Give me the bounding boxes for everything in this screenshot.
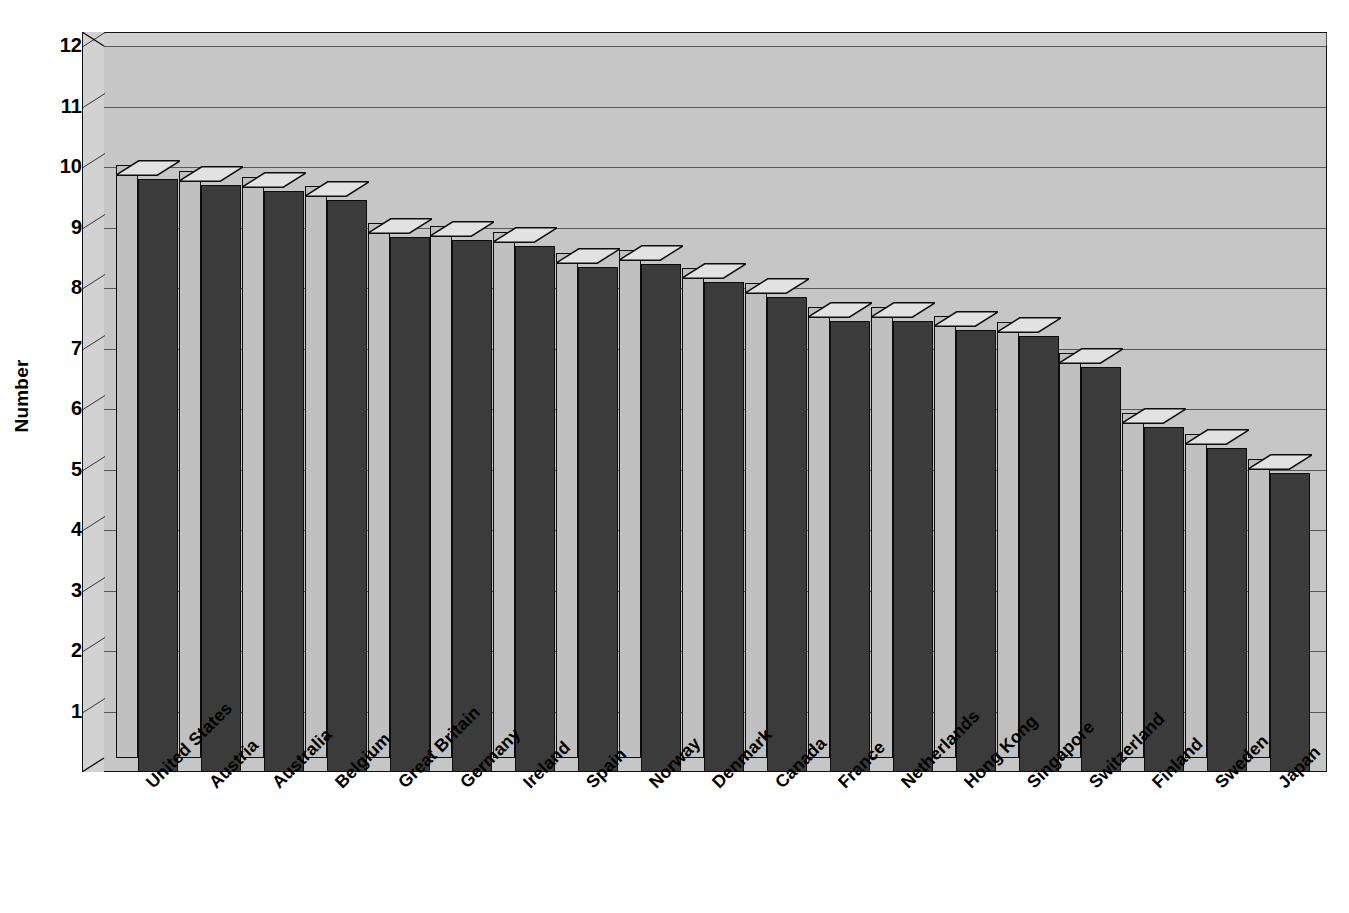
x-axis-tick-labels: United StatesAustriaAustraliaBelgiumGrea…: [0, 0, 1349, 913]
x-tick-label-denmark: Denmark: [708, 725, 776, 793]
x-tick-label-spain: Spain: [582, 744, 631, 793]
x-tick-label-ireland: Ireland: [519, 737, 575, 793]
x-tick-label-japan: Japan: [1274, 742, 1325, 793]
x-tick-label-sweden: Sweden: [1211, 731, 1273, 793]
x-tick-label-australia: Australia: [268, 724, 336, 792]
x-tick-label-belgium: Belgium: [331, 729, 395, 793]
x-tick-label-austria: Austria: [205, 735, 263, 793]
x-tick-label-canada: Canada: [771, 733, 831, 793]
x-tick-label-finland: Finland: [1148, 734, 1207, 793]
x-tick-label-france: France: [834, 737, 890, 793]
bar-chart: Number 121110987654321 United StatesAust…: [0, 0, 1349, 913]
x-tick-label-norway: Norway: [645, 733, 705, 793]
